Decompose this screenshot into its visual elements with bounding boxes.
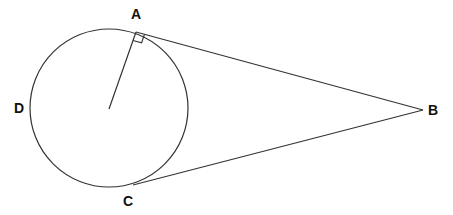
- radius-line: [109, 32, 136, 109]
- label-b: B: [428, 102, 438, 118]
- geometry-diagram: A B C D: [0, 0, 453, 215]
- tangent-line-cb: [133, 110, 423, 185]
- label-d: D: [14, 100, 24, 116]
- label-c: C: [123, 193, 133, 209]
- label-a: A: [131, 6, 141, 22]
